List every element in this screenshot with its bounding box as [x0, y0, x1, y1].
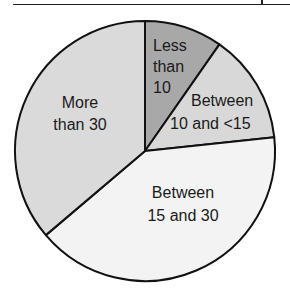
label-less-than-10-line1: Less — [153, 37, 187, 54]
label-more-than-30-line1: More — [62, 94, 99, 111]
pie-chart: Less than 10 Between 10 and <15 Between … — [0, 0, 290, 293]
label-more-than-30-line2: than 30 — [53, 116, 106, 133]
label-10-to-15-line2: 10 and <15 — [170, 115, 251, 132]
label-15-to-30-line1: Between — [152, 184, 214, 201]
label-10-to-15-line1: Between — [191, 92, 253, 109]
label-less-than-10-line2: than — [153, 58, 184, 75]
label-less-than-10-line3: 10 — [153, 79, 171, 96]
pie-slices — [15, 21, 275, 281]
label-15-to-30-line2: 15 and 30 — [147, 207, 218, 224]
